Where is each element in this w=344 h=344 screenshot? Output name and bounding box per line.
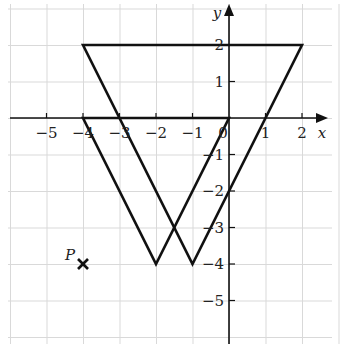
x-axis-label: x [318,124,327,142]
axes [10,4,328,344]
grid-lines [8,4,339,344]
y-axis-label: y [212,4,222,22]
y-axis-arrow-icon [224,4,234,16]
y-tick-label: −1 [202,146,224,164]
x-tick-label: −5 [35,124,57,142]
point-p-label: P [64,246,76,264]
y-tick-label: −2 [202,182,224,200]
x-tick-label: 2 [297,124,307,142]
diagram-canvas: −5−4−3−2−101221−1−2−3−4−5xy P [0,0,344,344]
coordinate-diagram: −5−4−3−2−101221−1−2−3−4−5xy P [0,0,344,344]
x-tick-label: −4 [72,124,94,142]
point-p: P [64,246,88,269]
y-tick-label: −4 [202,255,224,273]
x-axis-arrow-icon [316,113,328,123]
y-tick-label: −5 [202,292,224,310]
x-tick-label: −3 [108,124,130,142]
x-tick-label: 0 [218,124,228,142]
x-tick-label: −2 [145,124,167,142]
y-tick-label: −3 [202,219,224,237]
x-tick-label: 1 [261,124,271,142]
y-tick-label: 1 [214,73,224,91]
x-tick-label: −1 [181,124,203,142]
tick-labels: −5−4−3−2−101221−1−2−3−4−5xy [35,4,326,310]
y-tick-label: 2 [214,36,224,54]
